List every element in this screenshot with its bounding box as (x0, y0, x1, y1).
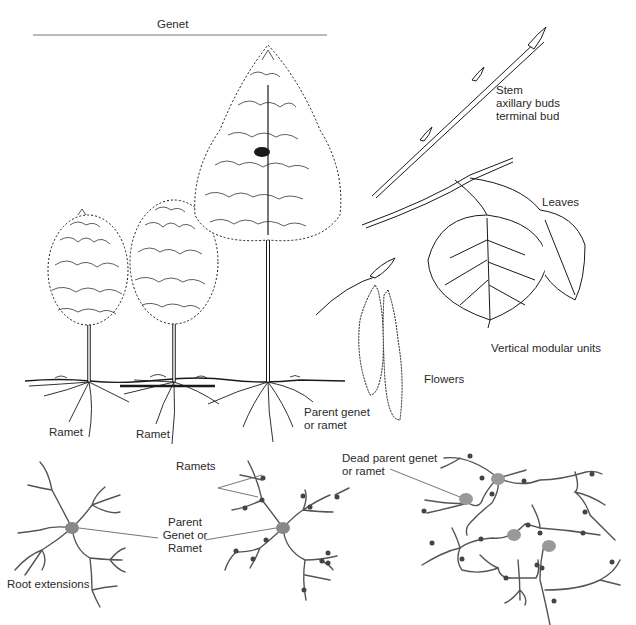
ramets-label: Ramets (176, 460, 216, 473)
parent-center-label-2: Genet or (157, 529, 213, 542)
flowers-label: Flowers (424, 373, 464, 386)
network-dead-parent (390, 454, 620, 625)
tree-parent (195, 45, 341, 382)
parent-center-label-3: Ramet (157, 542, 213, 555)
root-extensions-label: Root extensions (7, 578, 89, 591)
leaves-illustration (362, 158, 585, 328)
parent-genet-label-line2: or ramet (304, 419, 347, 432)
vertical-modular-units-label: Vertical modular units (491, 342, 601, 355)
ramet-label-2: Ramet (136, 428, 170, 441)
diagram-artwork (0, 0, 636, 625)
network-with-ramets (205, 461, 349, 600)
axillary-buds-label: axillary buds (496, 97, 560, 110)
leaves-label: Leaves (542, 196, 579, 209)
flowers-illustration (316, 258, 402, 420)
parent-genet-label-line1: Parent genet (304, 406, 370, 419)
tree-ramet-1 (48, 209, 128, 382)
genet-title: Genet (157, 18, 188, 31)
ground-line (25, 378, 345, 382)
stem-label: Stem (496, 84, 523, 97)
dead-parent-label-2: or ramet (342, 465, 385, 478)
ramet-label-1: Ramet (49, 426, 83, 439)
terminal-bud-label: terminal bud (496, 110, 559, 123)
parent-center-label-1: Parent (157, 516, 213, 529)
dead-parent-label-1: Dead parent genet (342, 452, 437, 465)
